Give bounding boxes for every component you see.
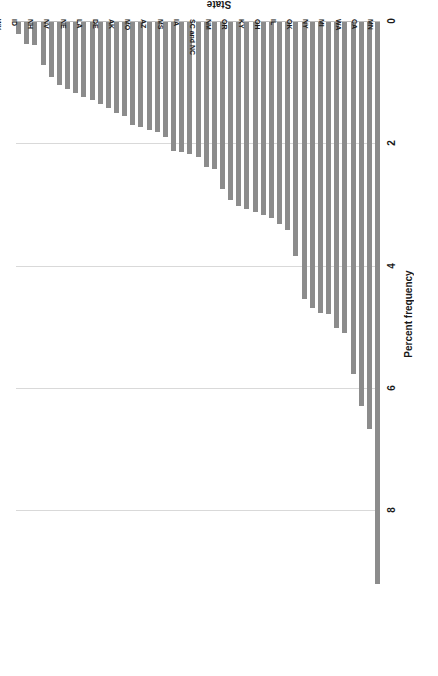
chart-screenshot: Percent frequency 02468 MNCAWAMINYOKILOH… [0,0,438,676]
bar [57,21,62,85]
plot-area [16,21,380,608]
category-axis-tick-label: NY [302,19,309,29]
value-axis-baseline [16,21,380,22]
bar [49,21,54,77]
bar [65,21,70,89]
bar [236,21,241,206]
bar [277,21,282,224]
bar [98,21,103,104]
bar [253,21,258,212]
bar [196,21,201,157]
category-axis-tick-label: ID [11,19,18,26]
bar [245,21,250,209]
bar [90,21,95,100]
bar [81,21,86,97]
bar [130,21,135,125]
category-axis-tick-label: NH [27,19,34,29]
bar [334,21,339,328]
category-axis-tick-label: AZ [140,19,147,28]
category-axis-tick-label: MO [124,19,131,30]
category-axis-tick-label: MI [318,19,325,27]
bar [302,21,307,299]
category-axis: MNCAWAMINYOKILOHKYORNMSC and NCIAMSAZMOA… [16,18,380,19]
category-axis-tick-label: MS [157,19,164,30]
bar [269,21,274,218]
bar [163,21,168,137]
bar [73,21,78,93]
bar [326,21,331,315]
bar-chart-figure: Percent frequency 02468 MNCAWAMINYOKILOH… [0,0,438,676]
category-axis-tick-label: OR [221,19,228,30]
bar [318,21,323,313]
bar [138,21,143,127]
bar [212,21,217,169]
bar [114,21,119,113]
bar [147,21,152,130]
bar [359,21,364,406]
category-axis-tick-label: OH [254,19,261,30]
category-axis-tick-label: WY [0,19,2,30]
value-axis-tick-label: 8 [385,507,396,513]
category-axis-tick-label: IL [270,19,277,25]
value-axis-tick-label: 0 [385,18,396,24]
bar [375,21,380,584]
value-axis-title: Percent frequency [403,271,414,358]
bar [367,21,372,429]
bar [204,21,209,167]
category-axis-tick-label: DE [92,19,99,29]
category-axis-tick-label: AK [108,19,115,29]
category-axis-tick-label: NE [60,19,67,29]
value-axis-tick-label: 6 [385,385,396,391]
bar [261,21,266,215]
bar [293,21,298,256]
value-axis-tick-label: 4 [385,263,396,269]
bar [228,21,233,200]
category-axis-title: State [0,0,438,10]
value-axis: Percent frequency 02468 [382,21,438,608]
category-axis-tick-label: WA [335,19,342,30]
bar [122,21,127,116]
bar [285,21,290,230]
category-axis-tick-label: KY [238,19,245,29]
bar-series [16,21,380,608]
category-axis-tick-label: IA [173,19,180,26]
bar [179,21,184,152]
bar [106,21,111,108]
bar [155,21,160,132]
bar [342,21,347,333]
bar [220,21,225,189]
value-axis-tick-label: 2 [385,141,396,147]
bar [310,21,315,308]
category-axis-tick-label: NM [205,19,212,30]
category-axis-tick-label: LA [76,19,83,28]
bar [171,21,176,151]
category-axis-tick-label: OK [286,19,293,30]
category-axis-tick-label: SC and NC [189,19,196,55]
category-axis-tick-label: MN [367,19,374,30]
category-axis-tick-label: NV [43,19,50,29]
bar [351,21,356,374]
category-axis-tick-label: CA [351,19,358,29]
